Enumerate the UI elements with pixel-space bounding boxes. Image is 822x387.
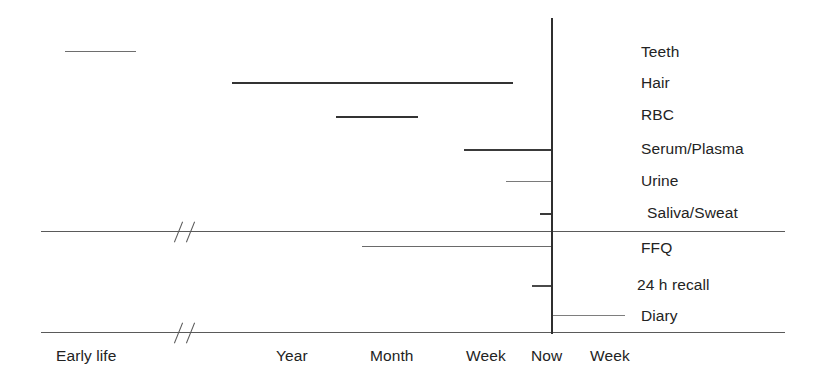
group-separator-line bbox=[41, 231, 785, 232]
bar-ffq bbox=[362, 246, 552, 247]
tick-label-now: Now bbox=[531, 348, 562, 364]
separator-break-mark-2 bbox=[186, 222, 195, 243]
axis-break-mark-2 bbox=[186, 323, 195, 344]
timeline-chart: Teeth Hair RBC Serum/Plasma Urine Saliva… bbox=[0, 0, 822, 387]
bar-teeth bbox=[65, 51, 136, 52]
series-label-rbc: RBC bbox=[641, 107, 674, 123]
bar-serum-plasma bbox=[464, 149, 552, 151]
series-label-teeth: Teeth bbox=[641, 44, 679, 60]
bar-urine bbox=[506, 181, 552, 182]
bar-diary bbox=[552, 315, 625, 316]
tick-label-week-future: Week bbox=[590, 348, 630, 364]
bar-hair bbox=[232, 82, 513, 84]
tick-label-early-life: Early life bbox=[56, 348, 116, 364]
tick-label-week-past: Week bbox=[466, 348, 506, 364]
series-label-diary: Diary bbox=[641, 308, 678, 324]
tick-label-year: Year bbox=[276, 348, 308, 364]
now-reference-line bbox=[551, 18, 553, 334]
bar-rbc bbox=[336, 116, 418, 118]
series-label-saliva-sweat: Saliva/Sweat bbox=[647, 205, 738, 221]
series-label-serum-plasma: Serum/Plasma bbox=[641, 141, 744, 157]
series-label-ffq: FFQ bbox=[641, 240, 672, 256]
series-label-hair: Hair bbox=[641, 75, 670, 91]
bar-24h-recall bbox=[532, 285, 552, 287]
x-axis-line bbox=[41, 332, 785, 333]
series-label-urine: Urine bbox=[641, 173, 679, 189]
axis-break-mark-1 bbox=[174, 323, 183, 344]
tick-label-month: Month bbox=[370, 348, 414, 364]
series-label-24h-recall: 24 h recall bbox=[637, 277, 710, 293]
separator-break-mark-1 bbox=[174, 222, 183, 243]
